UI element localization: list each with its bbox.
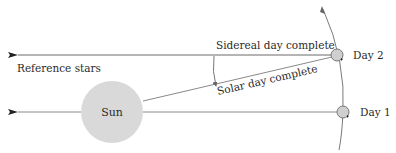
- angle-arc: [213, 56, 216, 86]
- sidereal-vs-solar-day-diagram: Sun Reference stars Sidereal day complet…: [0, 0, 396, 153]
- day2-label: Day 2: [353, 49, 384, 61]
- orbit-arc: [323, 9, 343, 150]
- sun-label: Sun: [101, 106, 123, 119]
- day1-label: Day 1: [360, 106, 391, 118]
- reference-stars-label: Reference stars: [17, 62, 101, 74]
- orbit-arrow-icon: [320, 6, 325, 14]
- solar-label: Solar day complete: [216, 62, 319, 97]
- solar-line: [143, 57, 332, 101]
- sidereal-label: Sidereal day complete: [216, 39, 335, 51]
